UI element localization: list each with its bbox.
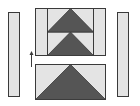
- bottom-block: [36, 65, 106, 100]
- arrow-up-icon: [30, 51, 34, 67]
- right-side-strip: [118, 13, 129, 97]
- left-side-strip: [9, 13, 20, 97]
- top-block: [36, 9, 106, 56]
- quilt-assembly-diagram: [0, 0, 140, 106]
